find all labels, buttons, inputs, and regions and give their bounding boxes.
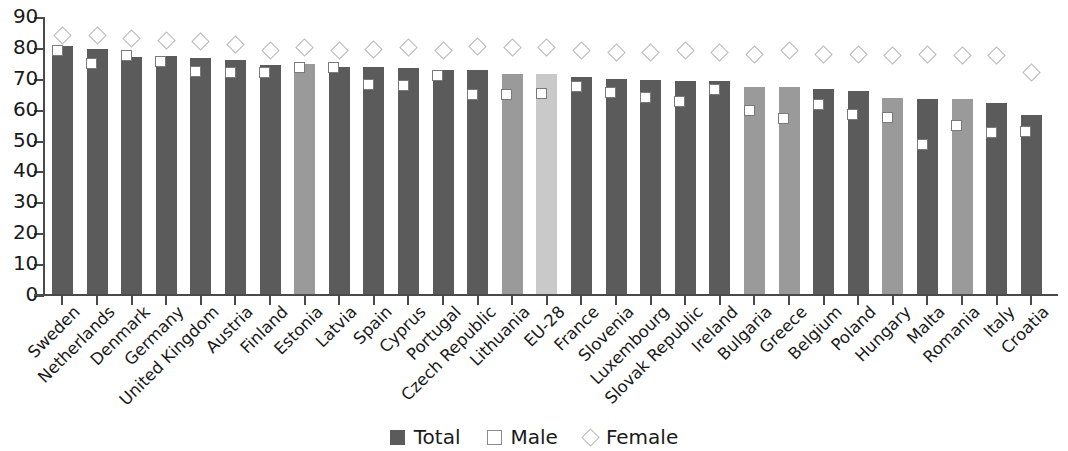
bar-total [156, 56, 177, 295]
bar-total [744, 87, 765, 295]
bar-group[interactable] [391, 17, 426, 295]
x-tick-mark [407, 296, 409, 305]
bar-total [813, 89, 834, 295]
male-marker [536, 88, 547, 99]
bar-group[interactable] [253, 17, 288, 295]
bar-total [571, 77, 592, 295]
female-marker [918, 45, 936, 63]
bar-group[interactable] [979, 17, 1014, 295]
male-marker [328, 62, 339, 73]
bar-group[interactable] [114, 17, 149, 295]
male-marker [778, 113, 789, 124]
bar-total [606, 79, 627, 295]
female-marker [572, 42, 590, 60]
x-tick-mark [823, 296, 825, 305]
legend-item[interactable]: Total [390, 426, 461, 448]
x-tick-mark [580, 296, 582, 305]
male-marker [398, 80, 409, 91]
female-marker [987, 46, 1005, 64]
x-tick-mark [926, 296, 928, 305]
bar-group[interactable] [910, 17, 945, 295]
y-tick-label: 90 [0, 5, 38, 27]
bar-group[interactable] [460, 17, 495, 295]
bar-group[interactable] [668, 17, 703, 295]
bar-total [848, 91, 869, 295]
female-marker [538, 39, 556, 57]
y-tick-label: 0 [0, 283, 38, 305]
female-marker [607, 43, 625, 61]
x-tick-mark [165, 296, 167, 305]
bar-group[interactable] [633, 17, 668, 295]
bar-group[interactable] [45, 17, 80, 295]
bar-group[interactable] [356, 17, 391, 295]
bar-group[interactable] [772, 17, 807, 295]
bar-group[interactable] [287, 17, 322, 295]
bar-group[interactable] [529, 17, 564, 295]
female-marker [399, 39, 417, 57]
filled-square-icon [390, 430, 405, 445]
x-tick-mark [650, 296, 652, 305]
bar-group[interactable] [737, 17, 772, 295]
legend-label: Total [414, 426, 461, 448]
male-marker [813, 99, 824, 110]
male-marker [259, 67, 270, 78]
bar-total [260, 65, 281, 295]
legend-item[interactable]: Male [487, 426, 558, 448]
male-marker [190, 66, 201, 77]
bar-group[interactable] [599, 17, 634, 295]
bar-group[interactable] [841, 17, 876, 295]
y-tick-label: 60 [0, 98, 38, 120]
bar-group[interactable] [183, 17, 218, 295]
bar-total [502, 74, 523, 295]
bar-group[interactable] [218, 17, 253, 295]
x-tick-mark [269, 296, 271, 305]
y-tick-label: 70 [0, 67, 38, 89]
bar-group[interactable] [426, 17, 461, 295]
bar-total [640, 80, 661, 295]
x-tick-mark [96, 296, 98, 305]
female-marker [192, 33, 210, 51]
y-tick-label: 10 [0, 252, 38, 274]
male-marker [1020, 126, 1031, 137]
female-marker [295, 39, 313, 57]
x-tick-mark [131, 296, 133, 305]
x-tick-mark [200, 296, 202, 305]
female-marker [88, 26, 106, 44]
bar-total [1021, 115, 1042, 295]
male-marker [640, 92, 651, 103]
bar-group[interactable] [1014, 17, 1049, 295]
bar-group[interactable] [945, 17, 980, 295]
female-marker [1022, 63, 1040, 81]
male-marker [467, 89, 478, 100]
bar-group[interactable] [875, 17, 910, 295]
female-marker [226, 36, 244, 54]
bar-total [536, 74, 557, 295]
plot-area [45, 17, 1055, 295]
bar-group[interactable] [702, 17, 737, 295]
x-tick-mark [892, 296, 894, 305]
x-tick-mark [961, 296, 963, 305]
x-tick-mark [234, 296, 236, 305]
bar-group[interactable] [806, 17, 841, 295]
chart-legend: TotalMaleFemale [0, 426, 1068, 448]
male-marker [882, 112, 893, 123]
bar-total [675, 81, 696, 295]
bar-total [87, 49, 108, 295]
bar-total [294, 64, 315, 295]
bar-total [190, 58, 211, 295]
male-marker [121, 50, 132, 61]
bar-group[interactable] [495, 17, 530, 295]
bar-group[interactable] [80, 17, 115, 295]
male-marker [501, 89, 512, 100]
female-marker [261, 42, 279, 60]
bar-group[interactable] [149, 17, 184, 295]
legend-item[interactable]: Female [584, 426, 678, 448]
bar-total [917, 99, 938, 295]
male-marker [986, 127, 997, 138]
female-marker [330, 42, 348, 60]
x-tick-mark [304, 296, 306, 305]
x-tick-mark [615, 296, 617, 305]
female-marker [503, 39, 521, 57]
bar-group[interactable] [322, 17, 357, 295]
bar-group[interactable] [564, 17, 599, 295]
